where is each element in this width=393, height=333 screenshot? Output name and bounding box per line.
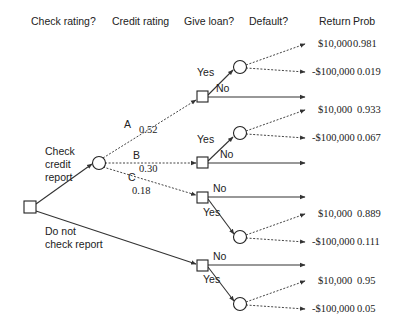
chance-node-default-c [234, 231, 247, 244]
edge-default-a-fail [246, 68, 305, 72]
label-b-yes: Yes [197, 133, 214, 145]
header-give-loan: Give loan? [184, 15, 234, 27]
header-default: Default? [249, 15, 288, 27]
label-c-no: No [213, 182, 227, 194]
header-check-rating: Check rating? [31, 15, 96, 27]
label-check-line2: credit [45, 158, 71, 170]
outcome-prob: 0.981 [353, 38, 377, 49]
edge-default-b-ok [246, 110, 305, 131]
header-credit-rating: Credit rating [112, 15, 169, 27]
chance-node-default-a [234, 61, 247, 74]
label-nocheck-no: No [213, 250, 227, 262]
outcome-return: $10,000 [318, 275, 352, 286]
outcome-prob: 0.889 [357, 208, 381, 219]
decision-node-rating-b [197, 157, 208, 168]
outcome-return: -$100,000 [312, 66, 355, 77]
label-nocheck-line1: Do not [45, 225, 76, 237]
label-nocheck-yes: Yes [203, 273, 220, 285]
label-a-no: No [216, 82, 230, 94]
chance-node-credit-rating [93, 157, 106, 170]
label-rating-c: C [128, 171, 136, 183]
decision-node-root [24, 201, 36, 213]
outcome-return: $10,000 [318, 104, 352, 115]
edge-default-c-ok [246, 214, 305, 235]
outcome-return: -$100,000 [312, 132, 355, 143]
chance-node-default-b [234, 127, 247, 140]
outcome-prob: 0.05 [357, 303, 375, 314]
decision-node-rating-c [197, 192, 208, 203]
label-rating-a: A [124, 118, 131, 130]
edge-default-nc-fail [246, 305, 305, 309]
label-c-yes: Yes [203, 206, 220, 218]
edge-default-b-fail [246, 134, 305, 138]
outcome-prob: 0.067 [357, 132, 381, 143]
decision-tree: Check rating? Credit rating Give loan? D… [0, 0, 393, 333]
label-rating-b: B [133, 149, 140, 161]
outcome-prob: 0.111 [357, 236, 380, 247]
outcome-prob: 0.95 [357, 275, 375, 286]
outcome-return: $10,000 [318, 208, 352, 219]
label-rating-a-prob: 0.52 [139, 124, 157, 135]
edge-default-a-ok [246, 44, 305, 65]
decision-node-rating-a [197, 91, 208, 102]
decision-node-no-check [197, 260, 208, 271]
outcome-return: -$100,000 [312, 303, 355, 314]
header-prob: Prob [353, 15, 375, 27]
outcome-return: $10,000 [318, 38, 352, 49]
outcome-return: -$100,000 [312, 236, 355, 247]
label-rating-b-prob: 0.30 [139, 163, 157, 174]
label-check-line1: Check [45, 145, 76, 157]
outcome-prob: 0.019 [357, 66, 381, 77]
edge-default-nc-ok [246, 281, 305, 302]
header-return: Return [319, 15, 351, 27]
chance-node-default-nc [234, 298, 247, 311]
label-a-yes: Yes [197, 66, 214, 78]
edge-check-credit [36, 164, 92, 204]
edge-default-c-fail [246, 238, 305, 242]
label-nocheck-line2: check report [45, 238, 103, 250]
outcome-prob: 0.933 [357, 104, 381, 115]
label-b-no: No [220, 148, 234, 160]
label-rating-c-prob: 0.18 [132, 185, 150, 196]
label-check-line3: report [45, 171, 73, 183]
